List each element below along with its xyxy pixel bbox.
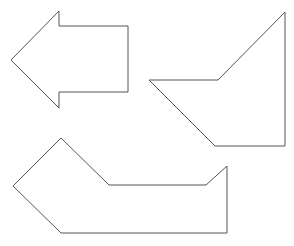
shapes-diagram bbox=[0, 0, 294, 246]
right-polygon-shape bbox=[149, 12, 285, 146]
bottom-polygon-shape bbox=[13, 138, 227, 233]
left-arrow-shape bbox=[11, 11, 128, 108]
